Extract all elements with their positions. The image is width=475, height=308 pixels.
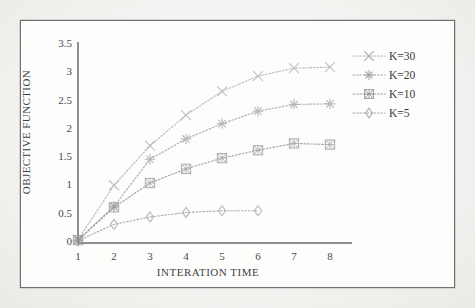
data-point-square-hatch (109, 203, 118, 212)
legend-label: K=20 (389, 69, 415, 81)
data-point-star (253, 106, 263, 116)
legend-marker-icon (352, 87, 386, 101)
data-point-cross (181, 110, 191, 120)
data-point-cross (253, 71, 263, 81)
x-axis-title: INTERATION TIME (78, 266, 338, 278)
data-point-square-hatch (145, 178, 154, 187)
data-point-square-hatch (253, 146, 262, 155)
series-k30 (73, 62, 335, 245)
series-k10 (73, 139, 334, 245)
data-point-star (364, 70, 374, 80)
data-point-cross (109, 180, 119, 190)
legend-item-k20[interactable]: K=20 (352, 65, 415, 84)
legend-label: K=5 (389, 107, 410, 119)
data-point-cross (145, 141, 155, 151)
data-point-star (289, 99, 299, 109)
data-point-cross (217, 86, 227, 96)
x-tick-label: 8 (318, 250, 342, 262)
legend-item-k5[interactable]: K=5 (352, 103, 415, 122)
legend-marker-icon (352, 68, 386, 82)
legend-label: K=10 (389, 88, 415, 100)
data-point-square-hatch (181, 164, 190, 173)
x-tick-label: 7 (282, 250, 306, 262)
legend-label: K=30 (389, 50, 415, 62)
legend-marker-icon (352, 106, 386, 120)
data-point-star (217, 118, 227, 128)
y-tick-label: 2 (32, 122, 72, 134)
legend-item-k10[interactable]: K=10 (352, 84, 415, 103)
x-tick-label: 5 (210, 250, 234, 262)
y-axis-title: OBJECTIVE FUNCTION (20, 52, 32, 212)
y-tick-label: 0.5 (32, 207, 72, 219)
x-tick-label: 2 (102, 250, 126, 262)
x-tick-label: 4 (174, 250, 198, 262)
series-k5 (74, 206, 261, 246)
y-tick-label: 2.5 (32, 94, 72, 106)
legend-marker-icon (352, 49, 386, 63)
series-k20 (73, 99, 335, 246)
legend-item-k30[interactable]: K=30 (352, 46, 415, 65)
y-tick-label: 1 (32, 178, 72, 190)
data-point-square-hatch (289, 139, 298, 148)
data-point-star (181, 134, 191, 144)
y-tick-label: 3.5 (32, 37, 72, 49)
y-tick-label: 0 (32, 235, 72, 247)
data-point-square-hatch (217, 154, 226, 163)
chart-legend: K=30K=20K=10K=5 (352, 46, 415, 122)
x-tick-label: 3 (138, 250, 162, 262)
y-tick-label: 3 (32, 65, 72, 77)
x-tick-label: 6 (246, 250, 270, 262)
figure-container: OBJECTIVE FUNCTION INTERATION TIME 00.51… (0, 0, 475, 308)
data-point-square-hatch (365, 89, 374, 98)
data-point-star (325, 99, 335, 109)
y-tick-label: 1.5 (32, 150, 72, 162)
data-point-cross (325, 62, 335, 72)
data-point-square-hatch (325, 140, 334, 149)
x-tick-label: 1 (66, 250, 90, 262)
data-point-star (145, 154, 155, 164)
